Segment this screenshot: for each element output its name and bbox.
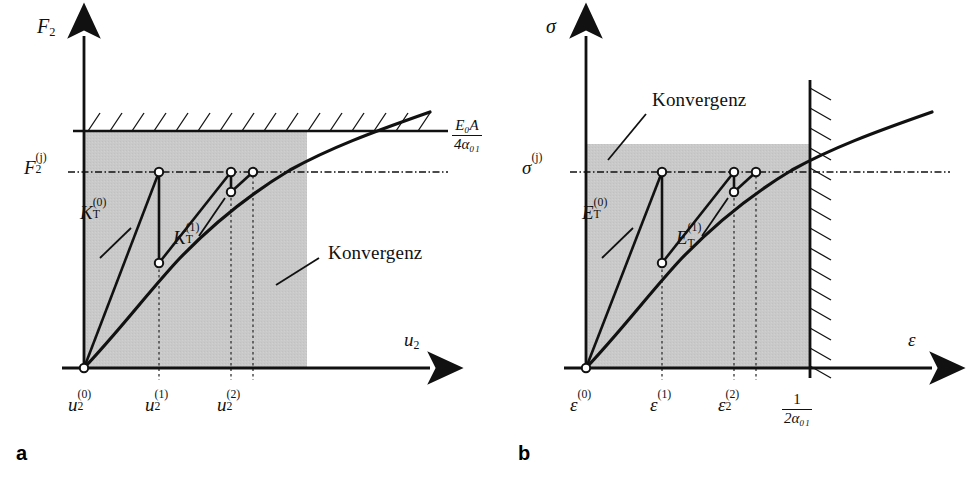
panel-letter-b: b [518,443,530,463]
x-axis-label-b: ε [908,330,916,349]
iteration-marker [227,188,235,196]
iteration-marker [730,188,738,196]
panel-b: σ ε σ(j) 12α₀₁ ET(0) ET(1) Konvergenz ε(… [490,0,980,488]
shaded-convergence-region [586,144,810,368]
tick-label-a-0: u2(0) [68,395,78,414]
tick-label-b-0: ε(0) [570,395,578,414]
asymptote-label-a: E₀A4α₀₁ [452,118,482,153]
iteration-marker [658,259,666,267]
tick-label-b-1: ε(1) [650,395,658,414]
level-label-b: σ(j) [522,158,531,177]
tick-label-a-1: u2(1) [145,395,155,414]
panel-a: F2 u2 F2(j) E₀A4α₀₁ KT(0) KT(1) Konverge… [0,0,490,488]
tick-label-b-2: ε2(2) [718,395,726,414]
iteration-marker [249,168,257,176]
hatching-above-asymptote [88,113,430,131]
iteration-marker [227,168,235,176]
tick-label-a-2: u2(2) [217,395,227,414]
y-axis-label-b: σ [546,16,556,36]
panel-b-plot [490,0,980,488]
y-axis-label-a: F2 [37,16,55,36]
figure-root: F2 u2 F2(j) E₀A4α₀₁ KT(0) KT(1) Konverge… [0,0,980,488]
iteration-marker [582,364,590,372]
annotation-konvergenz-a: Konvergenz [328,243,423,262]
x-axis-label-a: u2 [404,330,419,349]
iteration-marker [80,364,88,372]
iteration-marker [658,168,666,176]
panel-letter-a: a [16,443,27,463]
hatching-right-of-asymptote [810,88,831,378]
stiffness-label-kt1: KT(1) [173,228,186,247]
iteration-marker [155,168,163,176]
stiffness-label-et1: ET(1) [676,228,688,247]
stiffness-label-kt0: KT(0) [80,203,93,222]
asymptote-label-b: 12α₀₁ [782,392,812,427]
iteration-marker [155,259,163,267]
iteration-marker [752,168,760,176]
level-label-a: F2(j) [24,158,36,177]
annotation-konvergenz-b: Konvergenz [652,90,747,109]
stiffness-label-et0: ET(0) [582,203,594,222]
iteration-marker [730,168,738,176]
